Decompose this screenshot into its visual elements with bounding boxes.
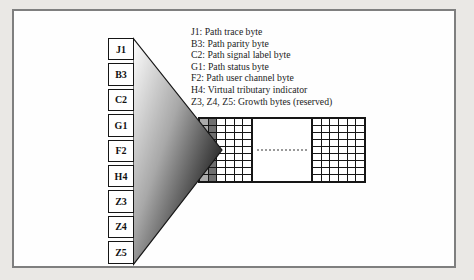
grid-cell xyxy=(313,140,321,146)
byte-box-h4: H4 xyxy=(108,165,134,187)
grid-cell xyxy=(339,154,347,160)
grid-cell xyxy=(339,133,347,139)
grid-cell xyxy=(313,147,321,153)
figure-canvas: J1: Path trace byte B3: Path parity byte… xyxy=(0,0,474,280)
grid-cell xyxy=(339,126,347,132)
grid-cell xyxy=(356,154,364,160)
grid-cell xyxy=(330,154,338,160)
byte-box-c2: C2 xyxy=(108,89,134,111)
grid-cell xyxy=(322,147,330,153)
grid-cell xyxy=(226,147,234,153)
grid-cell xyxy=(330,126,338,132)
byte-box-z4: Z4 xyxy=(108,216,134,238)
byte-box-g1: G1 xyxy=(108,114,134,136)
grid-cell xyxy=(356,126,364,132)
grid-cell xyxy=(356,175,364,181)
grid-cell xyxy=(226,133,234,139)
grid-cell xyxy=(226,140,234,146)
grid-cell xyxy=(330,175,338,181)
grid-cell xyxy=(356,147,364,153)
grid-cell xyxy=(339,119,347,125)
grid-cell xyxy=(235,154,243,160)
grid-cell xyxy=(243,133,251,139)
grid-cell xyxy=(243,154,251,160)
grid-cell xyxy=(313,175,321,181)
grid-cell xyxy=(339,140,347,146)
grid-cell xyxy=(339,161,347,167)
grid-cell xyxy=(313,126,321,132)
grid-cell xyxy=(330,140,338,146)
grid-cell xyxy=(243,147,251,153)
grid-cell xyxy=(313,168,321,174)
grid-cell xyxy=(243,168,251,174)
wedge-gradient xyxy=(133,36,224,267)
grid-cell xyxy=(235,133,243,139)
grid-cell xyxy=(322,133,330,139)
grid-cell xyxy=(356,140,364,146)
grid-cell xyxy=(330,168,338,174)
grid-cell xyxy=(356,119,364,125)
byte-box-b3: B3 xyxy=(108,63,134,85)
grid-dotted-line xyxy=(257,149,307,151)
grid-cell xyxy=(322,175,330,181)
grid-cell xyxy=(330,147,338,153)
grid-cell xyxy=(235,168,243,174)
grid-cell xyxy=(235,147,243,153)
wedge-triangle xyxy=(133,38,222,265)
grid-cell xyxy=(243,161,251,167)
byte-box-f2: F2 xyxy=(108,140,134,162)
grid-cell xyxy=(348,119,356,125)
grid-cell xyxy=(348,126,356,132)
grid-cell xyxy=(243,140,251,146)
grid-cell xyxy=(313,154,321,160)
grid-cell xyxy=(226,154,234,160)
grid-cell xyxy=(339,168,347,174)
grid-cell xyxy=(348,161,356,167)
grid-cell xyxy=(356,168,364,174)
grid-cell xyxy=(243,175,251,181)
grid-cell xyxy=(339,147,347,153)
grid-cell xyxy=(322,168,330,174)
grid-cell xyxy=(313,133,321,139)
grid-cell xyxy=(348,147,356,153)
grid-cell xyxy=(322,119,330,125)
grid-cell xyxy=(322,154,330,160)
grid-cell xyxy=(243,119,251,125)
grid-cell xyxy=(243,126,251,132)
grid-cell xyxy=(322,161,330,167)
grid-cell xyxy=(356,161,364,167)
grid-cell xyxy=(330,133,338,139)
grid-cell xyxy=(330,161,338,167)
byte-box-z3: Z3 xyxy=(108,190,134,212)
grid-cell xyxy=(348,133,356,139)
byte-column: J1 B3 C2 G1 F2 H4 Z3 Z4 Z5 xyxy=(108,38,134,264)
grid-cell xyxy=(235,140,243,146)
grid-cell xyxy=(235,126,243,132)
grid-cell xyxy=(313,119,321,125)
grid-cell xyxy=(226,175,234,181)
grid-cell xyxy=(235,119,243,125)
grid-cell xyxy=(348,175,356,181)
grid-gap xyxy=(253,119,311,181)
grid-cell xyxy=(356,133,364,139)
grid-cell xyxy=(226,126,234,132)
grid-cell xyxy=(330,119,338,125)
grid-cell xyxy=(339,175,347,181)
grid-cell xyxy=(226,119,234,125)
grid-cell xyxy=(235,161,243,167)
grid-cell xyxy=(322,126,330,132)
grid-cell xyxy=(348,168,356,174)
grid-cell xyxy=(322,140,330,146)
byte-box-j1: J1 xyxy=(108,38,134,60)
byte-box-z5: Z5 xyxy=(108,241,134,263)
grid-cell xyxy=(313,161,321,167)
grid-cell xyxy=(226,161,234,167)
grid-cell xyxy=(348,154,356,160)
diagram-frame: J1: Path trace byte B3: Path parity byte… xyxy=(12,9,456,268)
grid-cell xyxy=(348,140,356,146)
grid-cell xyxy=(226,168,234,174)
grid-right-section xyxy=(311,119,366,181)
grid-cell xyxy=(235,175,243,181)
